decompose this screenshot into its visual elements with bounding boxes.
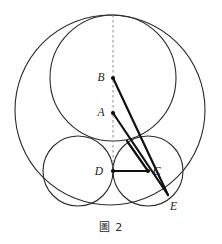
point-dot-C: [146, 169, 150, 173]
point-label-E: E: [169, 200, 177, 212]
geometry-diagram: A B C D E: [0, 0, 222, 244]
figure-caption: 圖 2: [0, 218, 222, 234]
point-dot-D: [111, 169, 115, 173]
point-label-D: D: [94, 165, 104, 177]
segments-group: [113, 78, 168, 195]
point-label-C: C: [153, 165, 161, 177]
point-dot-A: [111, 111, 115, 115]
segment-AE: [113, 113, 168, 195]
figure-container: A B C D E 圖 2: [0, 0, 222, 244]
segment-BE: [113, 78, 168, 195]
figure-caption-number: 2: [115, 221, 123, 234]
point-dot-B: [111, 76, 115, 80]
point-label-B: B: [97, 71, 104, 83]
figure-caption-mark: 圖: [99, 221, 111, 234]
circles-group: [15, 15, 205, 206]
point-label-A: A: [96, 106, 105, 118]
